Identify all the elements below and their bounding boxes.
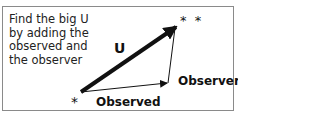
- start-marker: *: [71, 94, 78, 110]
- end-marker: * *: [180, 13, 203, 28]
- observer-vector: [168, 28, 175, 83]
- u-label: U: [114, 40, 125, 56]
- observer-label: Observer: [178, 74, 238, 88]
- observed-label: Observed: [96, 95, 161, 109]
- resultant-u-vector: [81, 27, 176, 92]
